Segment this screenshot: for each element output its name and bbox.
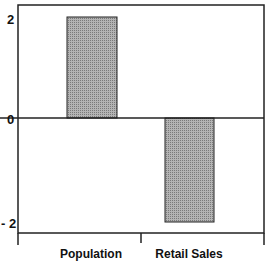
y-tick-label: 0 — [7, 112, 14, 127]
category-label: Population — [60, 247, 122, 261]
bar-retail-sales — [165, 118, 214, 222]
bar-chart: 2 0 - 2 Population Retail Sales — [0, 0, 269, 270]
category-label: Retail Sales — [155, 247, 223, 261]
bar-population — [67, 17, 117, 118]
plot-frame — [18, 5, 264, 233]
y-tick-label: 2 — [7, 12, 14, 27]
y-tick-label: - 2 — [1, 216, 16, 231]
